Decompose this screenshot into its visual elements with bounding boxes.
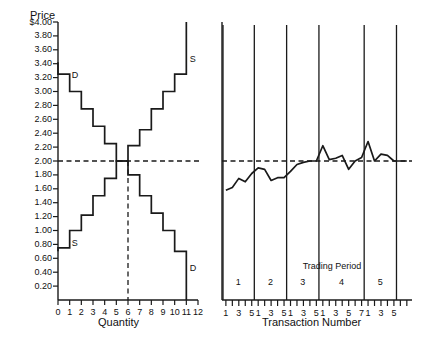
trading-period-label-1: 1 bbox=[230, 278, 246, 287]
left-x-axis-title: Quantity bbox=[98, 317, 139, 328]
transaction-price-series bbox=[226, 142, 407, 191]
left-x-tick-label: 1 bbox=[64, 308, 76, 317]
right-x-tick-label: 1 bbox=[221, 309, 231, 318]
trading-period-label-5: 5 bbox=[372, 278, 388, 287]
left-x-tick-label: 3 bbox=[87, 308, 99, 317]
left-y-tick-label: 3.60 bbox=[8, 45, 52, 54]
left-y-tick-label: 2.00 bbox=[8, 157, 52, 166]
trading-period-title: Trading Period bbox=[292, 262, 372, 271]
right-x-tick-label: 1 bbox=[253, 309, 263, 318]
supply-curve bbox=[58, 22, 186, 251]
left-x-tick-label: 8 bbox=[145, 308, 157, 317]
left-y-tick-label: 0.20 bbox=[8, 282, 52, 291]
right-x-tick-label: 1 bbox=[286, 309, 296, 318]
left-x-tick-label: 9 bbox=[157, 308, 169, 317]
trading-period-label-2: 2 bbox=[262, 278, 278, 287]
demand-curve bbox=[58, 62, 186, 300]
left-y-tick-label: 3.20 bbox=[8, 73, 52, 82]
left-y-tick-label: 1.00 bbox=[8, 226, 52, 235]
right-x-tick-label: 1 bbox=[318, 309, 328, 318]
left-x-tick-label: 5 bbox=[110, 308, 122, 317]
left-y-tick-label: 3.00 bbox=[8, 87, 52, 96]
left-x-tick-marks bbox=[58, 300, 198, 305]
right-x-tick-label: 3 bbox=[234, 309, 244, 318]
supply-demand-panel bbox=[53, 22, 202, 305]
left-y-tick-label: 0.40 bbox=[8, 268, 52, 277]
trading-period-label-4: 4 bbox=[334, 278, 350, 287]
right-x-tick-label: 3 bbox=[266, 309, 276, 318]
right-x-tick-label: 5 bbox=[389, 309, 399, 318]
right-x-tick-label: 3 bbox=[376, 309, 386, 318]
left-y-tick-label: 1.60 bbox=[8, 184, 52, 193]
economics-figure bbox=[0, 0, 421, 340]
trading-period-dividers bbox=[223, 25, 396, 300]
left-x-tick-label: 0 bbox=[52, 308, 64, 317]
right-x-tick-marks bbox=[226, 300, 407, 306]
left-y-tick-label: $4.00 bbox=[8, 18, 52, 27]
left-y-tick-label: 3.80 bbox=[8, 31, 52, 40]
right-x-axis-title: Transaction Number bbox=[262, 317, 361, 328]
left-y-tick-label: 2.20 bbox=[8, 143, 52, 152]
right-x-tick-label: 3 bbox=[298, 309, 308, 318]
left-x-tick-label: 7 bbox=[134, 308, 146, 317]
left-y-tick-label: 0.60 bbox=[8, 254, 52, 263]
curve-label-d-0: D bbox=[72, 71, 79, 80]
left-x-tick-label: 10 bbox=[169, 308, 181, 317]
left-x-tick-label: 4 bbox=[99, 308, 111, 317]
curve-label-d-1: D bbox=[190, 264, 197, 273]
left-y-tick-label: 2.80 bbox=[8, 101, 52, 110]
right-x-tick-label: 1 bbox=[363, 309, 373, 318]
left-y-tick-label: 3.40 bbox=[8, 59, 52, 68]
left-y-tick-label: 1.40 bbox=[8, 198, 52, 207]
left-y-tick-marks bbox=[53, 22, 58, 286]
left-y-tick-label: 2.60 bbox=[8, 115, 52, 124]
left-y-tick-label: 1.80 bbox=[8, 170, 52, 179]
left-y-tick-label: 0.80 bbox=[8, 240, 52, 249]
left-x-tick-label: 2 bbox=[75, 308, 87, 317]
left-x-tick-label: 12 bbox=[192, 308, 204, 317]
left-y-tick-label: 2.40 bbox=[8, 129, 52, 138]
left-x-tick-label: 6 bbox=[122, 308, 134, 317]
left-y-tick-label: 1.20 bbox=[8, 212, 52, 221]
curve-label-s-3: S bbox=[72, 239, 78, 248]
trading-period-label-3: 3 bbox=[295, 278, 311, 287]
curve-label-s-2: S bbox=[190, 55, 196, 64]
left-x-tick-label: 11 bbox=[180, 308, 192, 317]
right-x-tick-label: 3 bbox=[331, 309, 341, 318]
right-x-tick-label: 5 bbox=[344, 309, 354, 318]
